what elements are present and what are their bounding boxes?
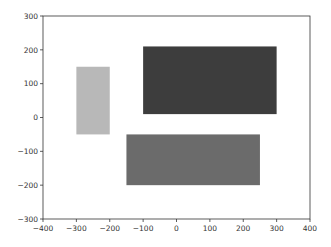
- y-tick-label: −300: [17, 215, 38, 224]
- y-axis: −300−200−1000100200300: [17, 12, 43, 224]
- y-tick-label: 200: [24, 46, 39, 55]
- x-tick-label: 200: [236, 224, 251, 233]
- x-tick-label: 400: [303, 224, 318, 233]
- x-tick-label: 300: [269, 224, 284, 233]
- light-rect: [76, 67, 109, 135]
- x-axis: −400−300−200−1000100200300400: [33, 219, 318, 233]
- rectangles-layer: [76, 46, 276, 185]
- x-tick-label: −200: [99, 224, 120, 233]
- dark-rect: [143, 46, 277, 114]
- y-tick-label: 300: [24, 12, 39, 21]
- y-tick-label: 100: [24, 79, 39, 88]
- y-tick-label: −200: [17, 181, 38, 190]
- x-tick-label: −400: [33, 224, 54, 233]
- y-tick-label: 0: [33, 113, 38, 122]
- x-tick-label: −300: [66, 224, 87, 233]
- x-tick-label: 100: [203, 224, 218, 233]
- medium-rect: [126, 134, 260, 185]
- x-tick-label: 0: [174, 224, 179, 233]
- x-tick-label: −100: [133, 224, 154, 233]
- y-tick-label: −100: [17, 147, 38, 156]
- chart: −400−300−200−1000100200300400 −300−200−1…: [0, 0, 331, 247]
